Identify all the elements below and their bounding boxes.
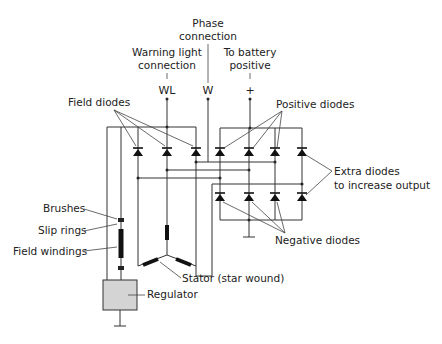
- terminal-wl: WL: [158, 84, 176, 97]
- battery-positive-label: To battery positive: [223, 46, 277, 71]
- stator-label: Stator (star wound): [182, 272, 284, 284]
- positive-diode-1: [215, 148, 225, 156]
- field-diodes-label: Field diodes: [68, 96, 130, 108]
- svg-text:connection: connection: [138, 59, 196, 71]
- negative-diodes-label: Negative diodes: [275, 234, 360, 246]
- svg-text:positive: positive: [229, 59, 270, 71]
- slip-rings-label: Slip rings: [38, 224, 87, 236]
- svg-text:To battery: To battery: [223, 46, 277, 58]
- svg-text:Phase: Phase: [192, 17, 223, 29]
- extra-diode-negative: [297, 193, 307, 201]
- extra-diodes-label-2: to increase output: [334, 179, 430, 191]
- negative-diode-1: [215, 193, 225, 201]
- warning-light-label: Warning light connection: [132, 46, 202, 71]
- brushes-label: Brushes: [43, 202, 85, 214]
- field-diode-2: [162, 148, 172, 156]
- alternator-circuit-diagram: Phase connection Warning light connectio…: [0, 0, 442, 344]
- positive-diodes-label: Positive diodes: [276, 98, 354, 110]
- main-rectifier: [212, 127, 307, 277]
- terminal-w: W: [203, 84, 214, 97]
- stator-star: [138, 218, 196, 266]
- positive-diode-2: [244, 148, 254, 156]
- field-diode-3: [191, 148, 201, 156]
- svg-text:Warning light: Warning light: [132, 46, 202, 58]
- extra-diode-positive: [297, 148, 307, 156]
- regulator-label: Regulator: [147, 288, 198, 300]
- field-diode-1: [133, 148, 143, 156]
- negative-diode-2: [244, 193, 254, 201]
- phase-connection-label: Phase connection: [179, 17, 237, 42]
- extra-diodes-label: Extra diodes: [334, 165, 400, 177]
- field-windings-label: Field windings: [13, 245, 87, 257]
- negative-diode-3: [270, 193, 280, 201]
- positive-diode-3: [270, 148, 280, 156]
- terminal-plus: +: [245, 84, 254, 97]
- rotor-assembly: [118, 213, 124, 280]
- svg-text:connection: connection: [179, 30, 237, 42]
